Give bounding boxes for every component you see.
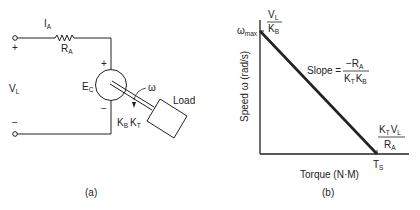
rotation-arrow-icon xyxy=(132,102,136,108)
speed-torque-chart: ωmax VL KB Slope = −RA KTKB KTVL RA TS T… xyxy=(237,9,409,198)
figure: IA RA + VL − EC + − ω Load KBKT (a) ωmax… xyxy=(0,0,420,210)
x-axis-label: Torque (N·M) xyxy=(300,169,359,180)
speed-torque-line xyxy=(260,31,377,154)
svg-text:Load: Load xyxy=(173,95,195,106)
y-axis-label: Speed ω (rad/s) xyxy=(239,51,250,122)
negative-terminal xyxy=(13,132,18,137)
svg-text:IA: IA xyxy=(44,18,52,30)
svg-text:VL: VL xyxy=(268,9,279,21)
resistor-icon xyxy=(55,35,74,41)
svg-text:−RA: −RA xyxy=(346,58,364,70)
svg-text:−: − xyxy=(101,103,107,114)
circuit-diagram: IA RA + VL − EC + − ω Load KBKT (a) xyxy=(9,18,195,198)
svg-text:TS: TS xyxy=(373,159,384,171)
svg-text:KTVL: KTVL xyxy=(379,124,401,136)
svg-text:RA: RA xyxy=(61,43,73,55)
caption-b: (b) xyxy=(322,187,334,198)
svg-text:−: − xyxy=(12,117,18,128)
svg-text:KTKB: KTKB xyxy=(344,73,367,85)
svg-text:KBKT: KBKT xyxy=(117,117,141,129)
svg-text:RA: RA xyxy=(384,139,396,151)
svg-text:KB: KB xyxy=(268,23,279,35)
svg-text:ω: ω xyxy=(148,82,156,93)
caption-a: (a) xyxy=(85,187,97,198)
svg-text:+: + xyxy=(12,42,18,53)
svg-text:ωmax: ωmax xyxy=(237,25,258,37)
svg-text:Slope =: Slope = xyxy=(307,65,341,76)
svg-text:EC: EC xyxy=(82,81,94,93)
svg-text:VL: VL xyxy=(9,83,20,95)
positive-terminal xyxy=(13,36,18,41)
svg-text:+: + xyxy=(101,58,107,69)
